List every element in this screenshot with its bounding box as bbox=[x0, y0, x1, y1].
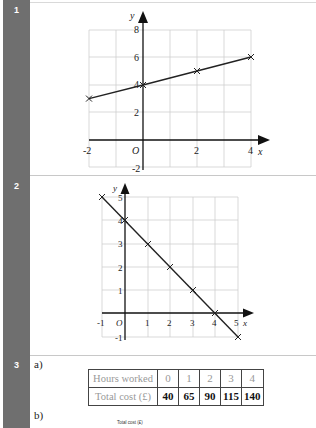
table-row-header: Total cost (£) bbox=[89, 388, 158, 406]
table-cell: 40 bbox=[158, 388, 179, 406]
table-cell: 65 bbox=[179, 388, 200, 406]
table-cell: 140 bbox=[242, 388, 264, 406]
x-tick: 2 bbox=[167, 318, 172, 328]
y-tick: -1 bbox=[115, 333, 123, 343]
table-row-hours: Hours worked 0 1 2 3 4 bbox=[89, 370, 264, 388]
question-3-part-a-label: a) bbox=[34, 358, 43, 370]
table-cell: 1 bbox=[179, 370, 200, 388]
graph-3-axis-caption: Total cost (£) bbox=[117, 420, 143, 425]
y-tick: 3 bbox=[118, 239, 123, 249]
graph-2: y x O -1 1 2 3 4 5 5 4 3 2 1 -1 bbox=[0, 0, 316, 428]
table-cell: 0 bbox=[158, 370, 179, 388]
table-cell: 90 bbox=[200, 388, 221, 406]
origin-label: O bbox=[116, 318, 123, 328]
x-tick: 3 bbox=[190, 318, 195, 328]
hours-cost-table: Hours worked 0 1 2 3 4 Total cost (£) 40… bbox=[88, 369, 264, 406]
x-tick: -1 bbox=[97, 318, 105, 328]
table-cell: 3 bbox=[221, 370, 242, 388]
y-tick: 2 bbox=[118, 263, 123, 273]
graph-2-axes bbox=[102, 190, 246, 340]
x-tick: 5 bbox=[234, 318, 239, 328]
x-tick: 4 bbox=[212, 318, 217, 328]
y-tick: 5 bbox=[118, 193, 123, 203]
question-3-part-b-label: b) bbox=[34, 409, 43, 421]
table-cell: 2 bbox=[200, 370, 221, 388]
y-tick: 4 bbox=[118, 216, 123, 226]
table-cell: 4 bbox=[242, 370, 264, 388]
x-tick: 1 bbox=[145, 318, 150, 328]
x-axis-label: x bbox=[242, 318, 247, 328]
y-axis-label: y bbox=[112, 183, 117, 193]
y-tick: 1 bbox=[118, 286, 123, 296]
table-row-header: Hours worked bbox=[89, 370, 158, 388]
table-cell: 115 bbox=[221, 388, 242, 406]
table-row-cost: Total cost (£) 40 65 90 115 140 bbox=[89, 388, 264, 406]
x-axis-arrow-icon bbox=[243, 309, 254, 318]
